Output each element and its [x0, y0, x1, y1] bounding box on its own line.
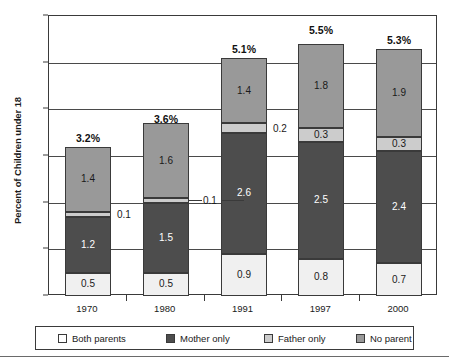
bar-segment-1997-father[interactable]: 0.3 [298, 128, 344, 142]
bar-segment-1970-father[interactable] [65, 212, 111, 217]
legend-label: Both parents [72, 333, 126, 344]
x-axis-tick-mark [359, 295, 360, 301]
bar-segment-1970-nopar[interactable]: 1.4 [65, 147, 111, 212]
segment-value-label: 1.5 [159, 233, 173, 243]
legend-swatch-icon [356, 334, 365, 343]
segment-value-label: 2.5 [314, 195, 328, 205]
bar-segment-1991-both[interactable]: 0.9 [221, 254, 267, 296]
x-axis-tick-label-1991: 1991 [208, 303, 278, 314]
bar-segment-1970-both[interactable]: 0.5 [65, 273, 111, 296]
bar-1991[interactable]: 0.92.61.4 [221, 16, 267, 296]
x-axis-tick-label-1970: 1970 [52, 303, 122, 314]
legend-label: Mother only [180, 333, 230, 344]
bar-1980[interactable]: 0.51.51.6 [143, 16, 189, 296]
x-axis-tick-mark [281, 295, 282, 301]
bar-segment-1991-nopar[interactable]: 1.4 [221, 58, 267, 123]
chart-legend: Both parentsMother onlyFather onlyNo par… [35, 326, 414, 350]
bar-segment-2000-both[interactable]: 0.7 [376, 263, 422, 296]
legend-swatch-icon [58, 334, 67, 343]
segment-value-label: 0.5 [81, 279, 95, 289]
bar-segment-2000-mother[interactable]: 2.4 [376, 151, 422, 263]
segment-value-label: 0.3 [392, 139, 406, 149]
legend-swatch-icon [166, 334, 175, 343]
bar-1997[interactable]: 0.82.50.31.8 [298, 16, 344, 296]
callout-leader-line [189, 200, 202, 201]
segment-value-label: 2.6 [237, 188, 251, 198]
bar-segment-1980-father[interactable] [143, 198, 189, 203]
x-axis-tick-label-1997: 1997 [285, 303, 355, 314]
legend-item-mother[interactable]: Mother only [166, 333, 230, 344]
x-axis-tick-mark [126, 295, 127, 301]
legend-item-both[interactable]: Both parents [58, 333, 126, 344]
bar-total-label-1997: 5.5% [286, 24, 356, 36]
plot-area: 0.51.21.43.2%0.51.51.63.6%0.92.61.45.1%0… [48, 15, 437, 295]
segment-value-label: 1.4 [237, 86, 251, 96]
legend-label: No parent [370, 333, 412, 344]
segment-value-label: 0.3 [314, 130, 328, 140]
segment-value-label: 1.9 [392, 88, 406, 98]
segment-value-label: 1.6 [159, 156, 173, 166]
callout-label-1991-father: 0.2 [273, 123, 287, 134]
segment-value-label: 1.8 [314, 81, 328, 91]
bar-segment-2000-father[interactable]: 0.3 [376, 137, 422, 151]
bar-segment-1980-mother[interactable]: 1.5 [143, 203, 189, 273]
bottom-rule [0, 356, 449, 357]
bar-segment-2000-nopar[interactable]: 1.9 [376, 49, 422, 138]
stacked-bar-chart: Percent of Children under 18 0.01.02.03.… [0, 0, 449, 358]
callout-label-1980-father: 0.1 [203, 195, 217, 206]
callout-label-1970-father: 0.1 [117, 209, 131, 220]
bar-segment-1991-mother[interactable]: 2.6 [221, 133, 267, 254]
y-axis-title: Percent of Children under 18 [12, 81, 23, 241]
segment-value-label: 0.8 [314, 272, 328, 282]
legend-label: Father only [278, 333, 326, 344]
segment-value-label: 1.4 [81, 174, 95, 184]
segment-value-label: 2.4 [392, 202, 406, 212]
legend-item-father[interactable]: Father only [264, 333, 326, 344]
legend-swatch-icon [264, 334, 273, 343]
bar-total-label-2000: 5.3% [364, 34, 434, 46]
bar-segment-1997-nopar[interactable]: 1.8 [298, 44, 344, 128]
bar-segment-1997-mother[interactable]: 2.5 [298, 142, 344, 259]
bar-segment-1980-both[interactable]: 0.5 [143, 273, 189, 296]
bar-segment-1991-father[interactable] [221, 123, 267, 132]
segment-value-label: 0.7 [392, 275, 406, 285]
callout-leader-line [222, 200, 244, 201]
bar-total-label-1980: 3.6% [131, 113, 201, 125]
segment-value-label: 0.9 [237, 270, 251, 280]
x-axis-tick-mark [204, 295, 205, 301]
bar-total-label-1970: 3.2% [53, 132, 123, 144]
x-axis-tick-label-2000: 2000 [363, 303, 433, 314]
x-axis-tick-label-1980: 1980 [130, 303, 200, 314]
bar-1970[interactable]: 0.51.21.4 [65, 16, 111, 296]
bar-segment-1970-mother[interactable]: 1.2 [65, 217, 111, 273]
segment-value-label: 0.5 [159, 279, 173, 289]
bar-2000[interactable]: 0.72.40.31.9 [376, 16, 422, 296]
bar-segment-1980-nopar[interactable]: 1.6 [143, 123, 189, 198]
segment-value-label: 1.2 [81, 240, 95, 250]
bar-segment-1997-both[interactable]: 0.8 [298, 259, 344, 296]
bar-total-label-1991: 5.1% [209, 43, 279, 55]
legend-item-nopar[interactable]: No parent [356, 333, 412, 344]
